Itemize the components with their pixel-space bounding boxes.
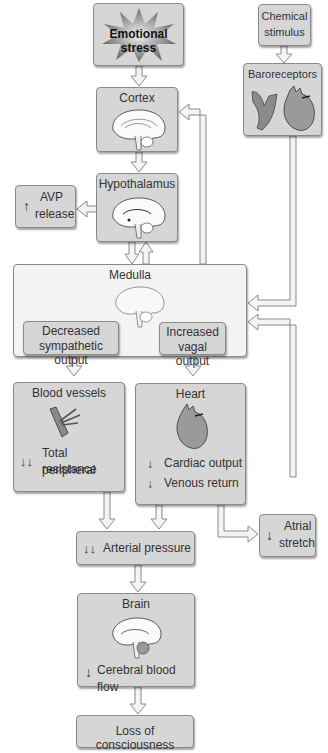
decreased-sympathetic-line2: sympathetic output	[24, 339, 118, 367]
node-loss-of-consciousness: Loss of consciousness	[76, 715, 194, 748]
decreased-sympathetic-output: Decreased sympathetic output	[23, 321, 119, 355]
arterial-pressure-label: Arterial pressure	[103, 540, 191, 557]
baroreceptors-label: Baroreceptors	[244, 68, 321, 80]
hypothalamus-label: Hypothalamus	[97, 177, 177, 191]
chemical-stimulus-line2: stimulus	[259, 26, 310, 38]
medulla-label: Medulla	[14, 268, 246, 282]
brain-icon	[109, 616, 165, 662]
node-medulla: Medulla Decreased sympathetic output Inc…	[13, 264, 247, 357]
blood-vessel-icon	[46, 403, 86, 443]
increase-arrow-icon: ↑	[23, 198, 30, 215]
carotid-artery-icon	[249, 88, 279, 132]
chemical-stimulus-line1: Chemical	[259, 10, 310, 22]
node-emotional-stress: Emotional stress	[93, 3, 184, 66]
loss-of-consciousness-label: Loss of consciousness	[77, 724, 193, 752]
atrial-line2: stretch	[279, 535, 315, 552]
node-baroreceptors: Baroreceptors	[243, 63, 322, 136]
heart-icon	[280, 84, 320, 134]
avp-line2: release	[35, 206, 74, 223]
increased-vagal-output: Increased vagal output	[159, 322, 226, 355]
atrial-line1: Atrial	[284, 518, 311, 535]
avp-line1: AVP	[40, 189, 63, 206]
node-heart: Heart ↓ Cardiac output ↓ Venous return	[135, 383, 246, 505]
node-atrial-stretch: ↓ Atrial stretch	[259, 514, 316, 557]
blood-vessels-label: Blood vessels	[14, 386, 124, 400]
heart-icon	[175, 404, 211, 452]
brain-icon	[109, 108, 169, 152]
node-blood-vessels: Blood vessels ↓↓ Total peripheral resist…	[13, 382, 125, 492]
node-avp-release: ↑ AVP release	[15, 185, 76, 228]
decrease-arrow-icon: ↓	[147, 456, 153, 473]
emotional-stress-label: Emotional stress	[94, 27, 183, 55]
decreased-sympathetic-line1: Decreased	[24, 324, 118, 338]
node-cortex: Cortex	[96, 87, 178, 152]
node-arterial-pressure: ↓↓ Arterial pressure	[76, 531, 195, 565]
decrease-double-arrow-icon: ↓↓	[20, 453, 33, 470]
node-chemical-stimulus: Chemical stimulus	[258, 4, 311, 46]
decrease-arrow-icon: ↓	[266, 527, 273, 544]
decrease-double-arrow-icon: ↓↓	[83, 540, 96, 557]
increased-vagal-line1: Increased	[160, 325, 225, 339]
increased-vagal-line2: vagal output	[160, 340, 225, 368]
heart-label: Heart	[136, 387, 245, 401]
heart-item-cardiac-output: Cardiac output	[164, 455, 242, 472]
node-hypothalamus: Hypothalamus	[96, 173, 178, 242]
decrease-arrow-icon: ↓	[85, 664, 92, 681]
brain-label: Brain	[78, 597, 194, 611]
decrease-arrow-icon: ↓	[147, 476, 153, 493]
cortex-label: Cortex	[97, 91, 177, 105]
node-brain: Brain ↓ Cerebral blood flow	[77, 593, 195, 687]
brain-item-cerebral-blood-flow: Cerebral blood flow	[97, 662, 194, 696]
heart-item-venous-return: Venous return	[164, 475, 239, 492]
blood-vessels-line2: resistance	[42, 461, 97, 478]
brain-icon	[109, 196, 169, 240]
